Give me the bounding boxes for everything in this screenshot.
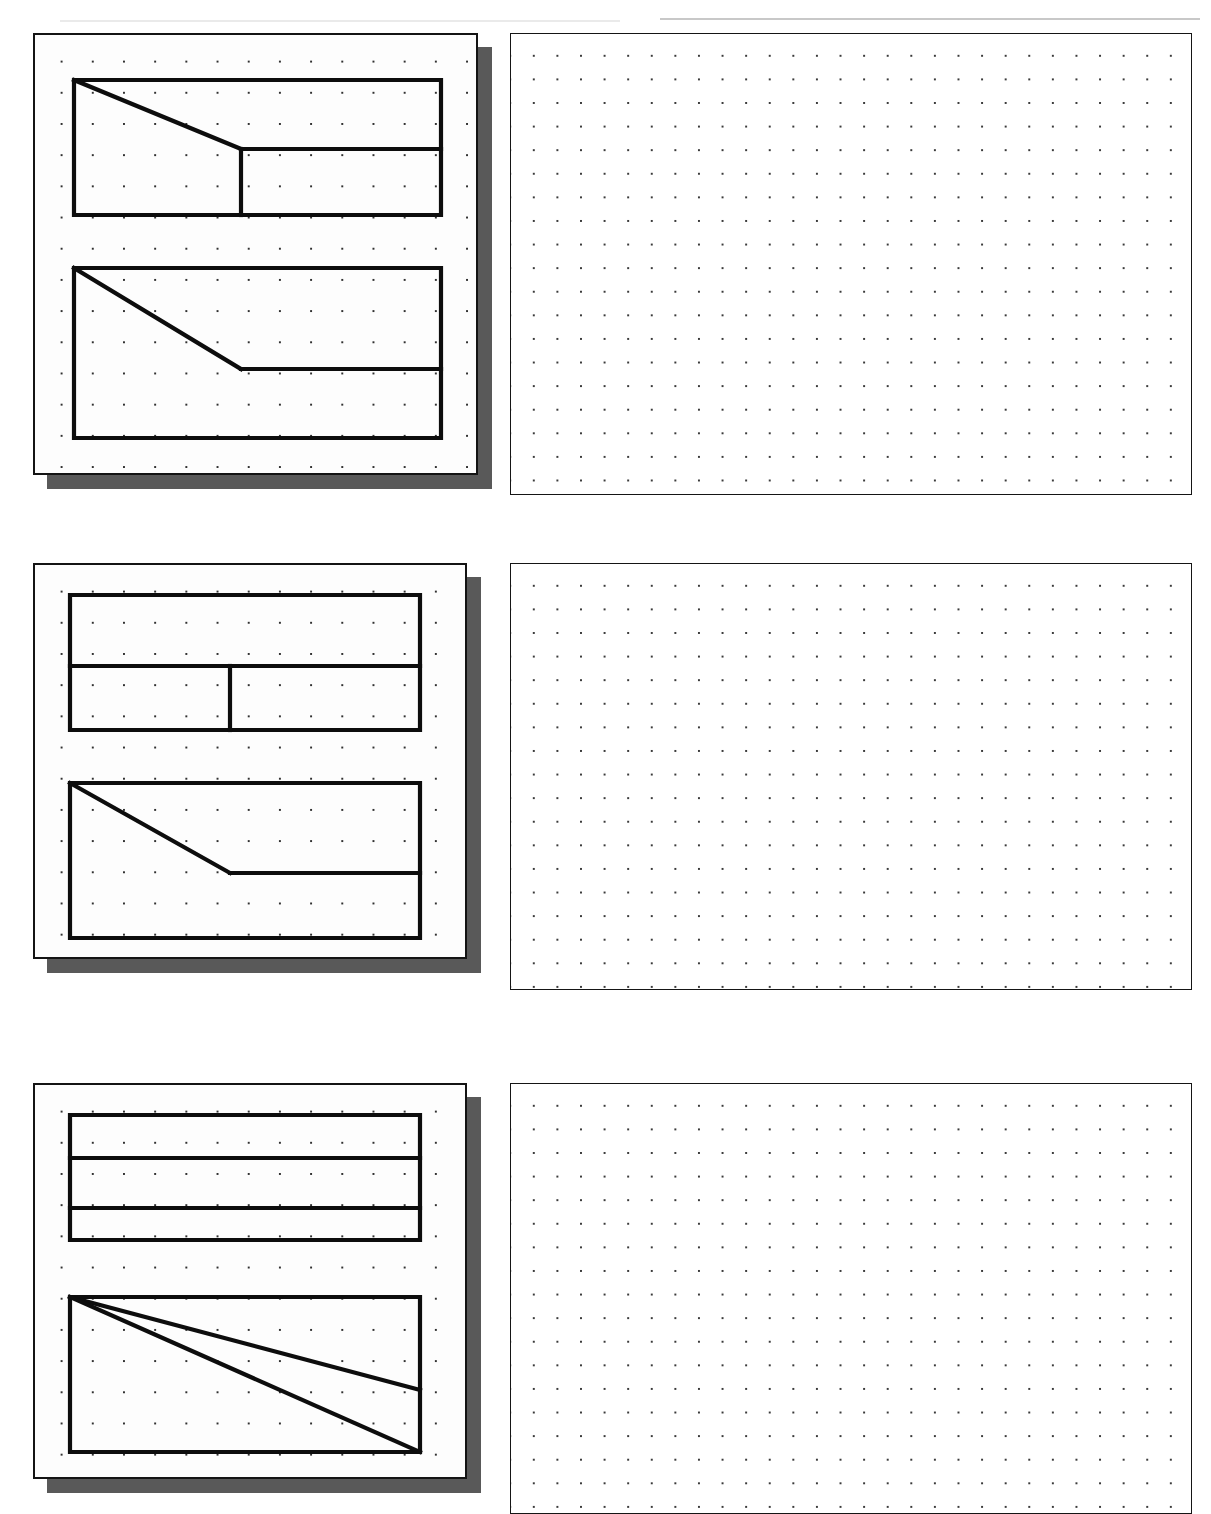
problem-3 [0,0,1211,1514]
answer-isometric-grid[interactable] [510,1083,1192,1514]
top-view-outline [70,1115,420,1240]
top-view [66,1111,424,1244]
front-view [66,1293,424,1456]
answer-dot-grid [511,1084,1191,1513]
worksheet-sheet [0,0,1211,1514]
